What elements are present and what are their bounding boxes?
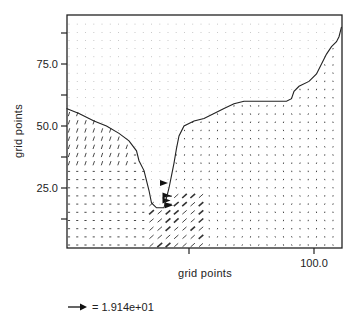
vector-arrow (193, 171, 194, 172)
vector-arrow (149, 219, 153, 223)
vector-arrow (191, 219, 195, 222)
y-tick-label: 25.0 (37, 182, 58, 194)
vector-arrow (259, 220, 260, 221)
vector-arrow (259, 212, 260, 213)
vector-arrow (308, 154, 309, 155)
vector-arrow (85, 161, 86, 165)
vector-arrow (308, 97, 309, 98)
vector-arrow (182, 202, 187, 206)
vector-arrow (193, 187, 194, 188)
vector-arrow (325, 73, 326, 74)
vector-arrow (174, 235, 178, 239)
vector-arrow (242, 179, 243, 180)
vector-arrow (209, 146, 210, 147)
vector-arrow (275, 244, 276, 245)
vector-arrow (308, 138, 309, 139)
vector-arrow (182, 210, 186, 214)
vector-arrow (176, 187, 177, 188)
vector-arrow (292, 203, 293, 204)
vector-arrow (275, 195, 276, 196)
vector-arrow (77, 161, 79, 165)
vector-arrow (325, 146, 326, 147)
reference-arrow-icon (68, 304, 87, 311)
vector-arrow (77, 128, 79, 132)
vector-arrow (199, 202, 204, 206)
vector-arrow (85, 120, 86, 124)
vector-arrow (191, 202, 196, 206)
vector-arrow (68, 120, 69, 124)
vector-arrow (209, 179, 210, 180)
vector-arrow (325, 203, 326, 204)
vector-arrow (259, 138, 260, 139)
vector-arrow (190, 194, 195, 198)
vector-arrow (209, 244, 210, 245)
vector-arrow (126, 145, 128, 149)
vector-arrow (308, 105, 309, 106)
vector-arrow (118, 145, 119, 149)
vector-arrow (158, 235, 162, 239)
vector-arrow (174, 210, 179, 214)
vector-arrow (110, 161, 112, 165)
vector-arrow (101, 137, 102, 141)
strong-vector-arrowhead (165, 202, 173, 208)
vector-arrow (77, 145, 79, 149)
vector-arrow (259, 187, 260, 188)
vector-arrow (242, 236, 243, 237)
vector-arrow (226, 122, 227, 123)
vector-arrow (183, 227, 187, 231)
vector-arrow (275, 236, 276, 237)
vector-arrow (292, 146, 293, 147)
vector-arrow (157, 243, 162, 247)
vector-arrow (226, 236, 227, 237)
vector-arrow (275, 220, 276, 221)
vector-arrow (149, 210, 154, 214)
vector-arrow (93, 145, 95, 149)
vector-arrow (93, 161, 95, 165)
vector-arrow (199, 227, 203, 231)
vector-arrow (183, 235, 187, 239)
vector-arrow (275, 105, 276, 106)
vector-arrow (275, 212, 276, 213)
vector-arrow (93, 128, 95, 132)
vector-arrow (226, 228, 227, 229)
vector-arrow (182, 219, 186, 223)
vector-arrow (150, 243, 154, 246)
vector-arrow (191, 243, 195, 247)
vector-arrow (242, 203, 243, 204)
vector-arrow (292, 138, 293, 139)
vector-arrow (174, 194, 178, 198)
vector-arrow (110, 153, 112, 157)
vector-arrow (126, 153, 128, 157)
vector-arrow (93, 137, 95, 141)
vector-arrow (275, 122, 276, 123)
vector-arrow (242, 212, 243, 213)
vector-arrow (68, 137, 69, 141)
vector-arrow (209, 171, 210, 172)
vector-arrow (259, 203, 260, 204)
vector-arrow (166, 243, 171, 247)
vector-arrow (101, 128, 102, 132)
vector-arrow (226, 154, 227, 155)
vector-arrow (85, 137, 86, 141)
vector-arrow (275, 130, 276, 131)
vector-arrow (158, 211, 162, 215)
x-tick-label: 100.0 (300, 257, 328, 269)
vector-arrow (158, 219, 162, 223)
vector-arrow (259, 171, 260, 172)
vector-arrow (68, 161, 69, 165)
vector-arrow (68, 128, 69, 132)
vector-arrow (242, 195, 243, 196)
vector-arrow (275, 146, 276, 147)
vector-arrow (191, 227, 196, 231)
vector-arrow (209, 187, 210, 188)
vector-arrow (308, 195, 309, 196)
vector-arrow (292, 154, 293, 155)
vector-arrow (242, 187, 243, 188)
vector-arrow (308, 212, 309, 213)
vector-arrow (93, 153, 95, 157)
vector-arrow (85, 128, 86, 132)
vector-arrow (174, 218, 179, 222)
vector-arrow (292, 130, 293, 131)
vector-arrow (275, 187, 276, 188)
plot-frame (67, 15, 342, 248)
